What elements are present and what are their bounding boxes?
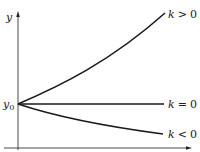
label-decay: k<0	[168, 128, 197, 141]
y-axis-label: y	[5, 11, 13, 24]
label-growth: k>0	[168, 8, 197, 21]
label-constant: k=0	[168, 98, 197, 111]
origin-label: y0	[2, 98, 14, 112]
x-axis-arrow-icon	[186, 146, 192, 150]
y-axis-arrow-icon	[16, 11, 20, 17]
curve-decay	[18, 104, 163, 134]
diagram-canvas: y y0 k>0 k=0 k<0	[0, 0, 200, 152]
exponential-diagram: y y0 k>0 k=0 k<0	[0, 0, 200, 152]
curve-growth	[18, 13, 165, 104]
